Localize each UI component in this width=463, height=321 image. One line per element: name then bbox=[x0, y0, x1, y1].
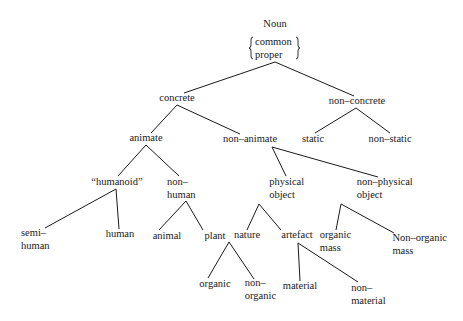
tree-nodes: concretenon–concreteanimatenon–animatest… bbox=[21, 92, 447, 306]
sublabel-proper: proper bbox=[255, 49, 283, 60]
edge-nature-to-non_organic bbox=[229, 242, 254, 279]
node-humanoid: “humanoid” bbox=[91, 176, 143, 187]
edge-humanoid-to-semi_human bbox=[45, 189, 116, 228]
edge-non_animate-to-physical_object bbox=[272, 147, 286, 176]
node-animate: animate bbox=[129, 132, 163, 143]
edge-physical_object-to-nature bbox=[247, 204, 259, 230]
edge-non_human-to-animal bbox=[159, 201, 186, 230]
right-brace-icon bbox=[296, 37, 300, 59]
node-non-organic-mass: Non–organicmass bbox=[392, 232, 447, 256]
edge-noun-to-non_concrete bbox=[275, 62, 354, 96]
node-artefact: artefact bbox=[281, 229, 313, 240]
edge-noun-to-concrete bbox=[184, 62, 275, 93]
node-plant: plant bbox=[205, 230, 226, 241]
node-non-human: non–human bbox=[167, 176, 196, 200]
edge-non_concrete-to-non_static bbox=[356, 108, 390, 133]
node-non-static: non–static bbox=[368, 133, 411, 144]
edge-animate-to-humanoid bbox=[118, 145, 146, 176]
node-organic-mass: organicmass bbox=[320, 229, 352, 253]
node-animal: animal bbox=[153, 230, 182, 241]
edge-non_human-to-plant bbox=[186, 201, 203, 230]
edge-concrete-to-non_animate bbox=[177, 105, 240, 134]
node-noun: Noun bbox=[263, 18, 287, 29]
node-non-organic: non–organic bbox=[245, 277, 277, 301]
node-non-concrete: non–concrete bbox=[329, 95, 386, 106]
edge-non_concrete-to-static bbox=[315, 108, 356, 133]
node-non-material: non–material bbox=[351, 282, 385, 306]
edge-humanoid-to-human bbox=[116, 189, 119, 229]
node-static: static bbox=[302, 133, 324, 144]
edge-physical_object-to-artefact bbox=[259, 204, 281, 230]
node-material: material bbox=[283, 280, 317, 291]
sublabel-common: common bbox=[255, 36, 292, 47]
edge-non_physical_object-to-organic_mass bbox=[336, 204, 341, 230]
node-non-animate: non–animate bbox=[223, 133, 278, 144]
edge-concrete-to-animate bbox=[151, 105, 177, 133]
node-concrete: concrete bbox=[159, 92, 195, 103]
edge-artefact-to-material bbox=[298, 243, 300, 281]
edge-nature-to-organic bbox=[208, 242, 229, 278]
node-organic: organic bbox=[199, 278, 231, 289]
root-sublabel-brace: common proper bbox=[249, 36, 300, 60]
noun-taxonomy-tree: Noun common proper concretenon–concretea… bbox=[0, 0, 463, 321]
node-semi-human: semi–human bbox=[21, 227, 50, 251]
node-human: human bbox=[106, 228, 135, 239]
node-nature: nature bbox=[234, 229, 261, 240]
node-physical-object: physicalobject bbox=[269, 176, 304, 200]
edge-non_animate-to-non_physical_object bbox=[272, 147, 378, 177]
node-non-physical-object: non–physicalobject bbox=[357, 176, 413, 200]
left-brace-icon bbox=[249, 37, 253, 59]
edge-animate-to-non_human bbox=[146, 145, 179, 176]
